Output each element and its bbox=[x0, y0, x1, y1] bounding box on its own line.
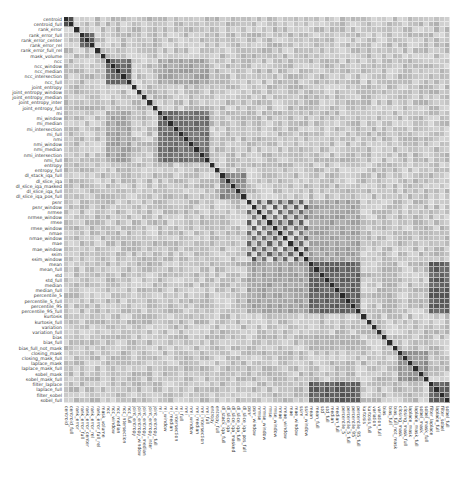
x-tick-label: rank_error_rel bbox=[90, 406, 95, 438]
heatmap-grid bbox=[64, 17, 450, 403]
x-tick-label: rank_error_full_rel bbox=[95, 406, 100, 447]
x-tick-label: mi_window bbox=[163, 406, 168, 431]
x-tick-label: mean bbox=[309, 406, 314, 419]
heatmap-cell bbox=[445, 398, 450, 403]
x-tick-label: nmae_window bbox=[283, 406, 288, 439]
x-tick-label: laplace_mask bbox=[408, 406, 413, 437]
x-tick-label: laplace_full bbox=[434, 406, 439, 432]
x-tick-label: joint_entropy_full bbox=[153, 406, 158, 446]
x-tick-label: dl_slice_iqa_full bbox=[236, 406, 241, 441]
x-tick-label: mae bbox=[288, 406, 293, 416]
x-tick-label: percentile_95_full bbox=[356, 406, 361, 447]
x-tick-label: sobel_full bbox=[445, 406, 450, 428]
x-tick-label: dl_slice_iqa_pos_full bbox=[241, 406, 246, 452]
x-tick-label: mi_median bbox=[168, 406, 173, 431]
x-tick-label: bias bbox=[382, 406, 387, 415]
x-tick-label: kurtosis bbox=[361, 406, 366, 424]
correlation-heatmap: centroidcentroid_fullrank_errorrank_erro… bbox=[0, 0, 464, 479]
x-tick-label: nrmse_window bbox=[262, 406, 267, 440]
y-tick-label: sobel_full bbox=[40, 398, 62, 403]
x-tick-label: filter_laplace bbox=[429, 406, 434, 435]
x-tick-label: nmi_window bbox=[189, 406, 194, 434]
x-tick-label: ncc_median bbox=[116, 406, 121, 433]
x-tick-label: median_full bbox=[335, 406, 340, 433]
x-tick-label: joint_entropy_median bbox=[142, 406, 147, 456]
x-tick-label: centroid_full bbox=[69, 406, 74, 434]
x-tick-label: entropy_full bbox=[215, 406, 220, 433]
